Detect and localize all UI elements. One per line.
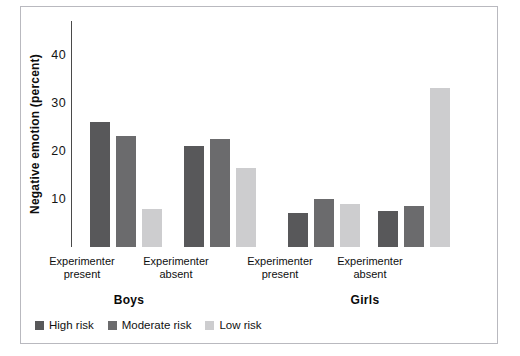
category-line-1: Experimenter [116,255,236,268]
supergroup-label-boys: Boys [49,293,209,307]
chart-legend: High risk Moderate risk Low risk [35,319,262,331]
bar-boys-present-moderate-risk [116,136,136,247]
bar-boys-present-high-risk [90,122,110,247]
category-label-girls-absent: Experimenter absent [310,255,430,281]
category-line-2: absent [310,268,430,281]
bar-group-girls-absent [378,21,462,247]
bar-girls-present-moderate-risk [314,199,334,247]
legend-swatch-moderate-risk [108,321,117,330]
legend-item-high-risk[interactable]: High risk [35,319,94,331]
legend-swatch-high-risk [35,321,44,330]
category-line-1: Experimenter [310,255,430,268]
bar-girls-present-high-risk [288,213,308,247]
legend-label-moderate-risk: Moderate risk [122,319,192,331]
legend-item-low-risk[interactable]: Low risk [205,319,261,331]
bar-girls-absent-low-risk [430,88,450,247]
legend-label-low-risk: Low risk [219,319,261,331]
legend-label-high-risk: High risk [49,319,94,331]
category-label-boys-absent: Experimenter absent [116,255,236,281]
bar-boys-absent-high-risk [184,146,204,247]
legend-item-moderate-risk[interactable]: Moderate risk [108,319,192,331]
plot-area: 40 30 20 10 [71,21,471,247]
y-tick-40: 40 [51,48,66,62]
chart-figure: 40 30 20 10 [20,6,498,344]
bar-girls-absent-high-risk [378,211,398,247]
category-line-2: absent [116,268,236,281]
bar-girls-absent-moderate-risk [404,206,424,247]
y-tick-20: 20 [51,144,66,158]
bar-group-girls-present [288,21,372,247]
bar-group-boys-absent [184,21,268,247]
bar-boys-absent-moderate-risk [210,139,230,247]
bar-boys-present-low-risk [142,209,162,247]
supergroup-label-girls: Girls [285,293,445,307]
y-tick-10: 10 [51,192,66,206]
bar-group-boys-present [90,21,174,247]
bar-boys-absent-low-risk [236,168,256,247]
y-axis-title: Negative emotion (percent) [27,21,43,247]
bar-girls-present-low-risk [340,204,360,247]
legend-swatch-low-risk [205,321,214,330]
y-tick-30: 30 [51,96,66,110]
bar-series-container [72,21,471,247]
